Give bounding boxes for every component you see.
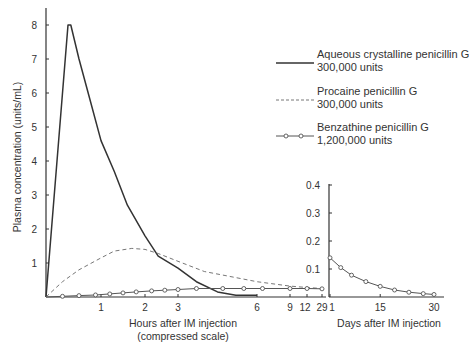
x-tick-label: 30: [428, 302, 440, 313]
days-panel-series: [328, 256, 436, 297]
data-marker: [221, 287, 225, 291]
y-tick-label: 0.3: [306, 208, 320, 219]
data-marker: [176, 288, 180, 292]
data-marker: [421, 292, 425, 296]
x-tick-label: 2: [142, 302, 148, 313]
y-tick-label: 5: [31, 122, 37, 133]
legend-sublabel: 1,200,000 units: [317, 134, 393, 146]
x-tick-label: 1: [329, 302, 335, 313]
legend-label: Procaine penicillin G: [317, 85, 417, 97]
x-tick-label: 6: [254, 302, 260, 313]
y-tick-label: 7: [31, 54, 37, 65]
chart-canvas: 12345678123691229 0.10.20.30.411530 Aque…: [0, 0, 469, 346]
legend-label: Aqueous crystalline penicillin G: [317, 48, 469, 60]
series-line: [46, 25, 257, 297]
x-tick-label: 3: [175, 302, 181, 313]
x-axis-title-days: Days after IM injection: [337, 317, 441, 329]
data-marker: [150, 289, 154, 293]
data-marker: [407, 290, 411, 294]
y-tick-label: 0.4: [306, 180, 320, 191]
data-marker: [134, 290, 138, 294]
data-marker: [432, 292, 436, 296]
legend-marker: [284, 134, 288, 138]
x-tick-label: 9: [287, 302, 293, 313]
data-marker: [364, 280, 368, 284]
data-marker: [350, 273, 354, 277]
legend: Aqueous crystalline penicillin G300,000 …: [276, 48, 469, 146]
x-tick-label: 12: [299, 302, 311, 313]
data-marker: [242, 287, 246, 291]
data-marker: [163, 288, 167, 292]
data-marker: [328, 256, 332, 260]
y-tick-label: 8: [31, 20, 37, 31]
data-marker: [61, 294, 65, 298]
y-tick-label: 0.2: [306, 236, 320, 247]
data-marker: [194, 287, 198, 291]
x-axis-subtitle-hours: (compressed scale): [137, 330, 229, 342]
legend-sublabel: 300,000 units: [317, 61, 384, 73]
x-axis-title-hours: Hours after IM injection: [129, 317, 237, 329]
y-tick-label: 0.1: [306, 264, 320, 275]
x-tick-label: 29: [316, 302, 328, 313]
data-marker: [339, 266, 343, 270]
hours-panel-axes: 12345678123691229: [31, 8, 328, 313]
penicillin-concentration-chart: 12345678123691229 0.10.20.30.411530 Aque…: [0, 0, 469, 346]
data-marker: [288, 287, 292, 291]
legend-marker: [299, 134, 303, 138]
x-tick-label: 15: [375, 302, 387, 313]
y-axis-title: Plasma concentration (units/mL): [11, 82, 23, 233]
y-tick-label: 1: [31, 258, 37, 269]
legend-item: Procaine penicillin G300,000 units: [276, 85, 417, 110]
y-tick-label: 3: [31, 190, 37, 201]
legend-item: Benzathine penicillin G1,200,000 units: [276, 121, 429, 146]
data-marker: [108, 292, 112, 296]
data-marker: [320, 287, 324, 291]
data-marker: [378, 284, 382, 288]
y-tick-label: 4: [31, 156, 37, 167]
legend-sublabel: 300,000 units: [317, 98, 384, 110]
legend-item: Aqueous crystalline penicillin G300,000 …: [276, 48, 469, 73]
x-tick-label: 1: [98, 302, 104, 313]
legend-label: Benzathine penicillin G: [317, 121, 429, 133]
data-marker: [305, 287, 309, 291]
y-tick-label: 2: [31, 224, 37, 235]
series-line: [46, 289, 322, 298]
series-line: [330, 258, 434, 295]
data-marker: [393, 288, 397, 292]
hours-panel-series: [46, 25, 324, 298]
y-tick-label: 6: [31, 88, 37, 99]
data-marker: [261, 287, 265, 291]
data-marker: [77, 294, 81, 298]
data-marker: [121, 291, 125, 295]
data-marker: [94, 293, 98, 297]
